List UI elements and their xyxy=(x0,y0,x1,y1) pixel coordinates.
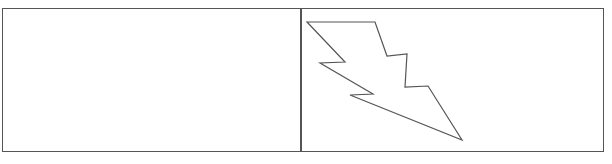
left-panel xyxy=(3,9,301,151)
right-panel xyxy=(301,9,603,151)
diagram-canvas xyxy=(0,0,612,164)
diagram-svg xyxy=(0,0,612,164)
